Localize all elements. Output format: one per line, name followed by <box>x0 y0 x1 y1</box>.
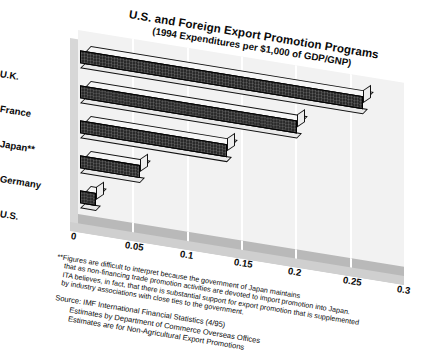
bar <box>80 155 140 178</box>
x-tick-label: 0.2 <box>288 265 303 278</box>
chart-figure: U.K.FranceJapan**GermanyU.S. 00.050.10.1… <box>0 0 422 356</box>
category-label-uk: U.K. <box>0 68 1 79</box>
category-label-france: France <box>0 103 1 114</box>
bar <box>80 120 227 157</box>
bar-end-cap <box>363 85 371 103</box>
category-axis: U.K.FranceJapan**GermanyU.S. <box>0 0 70 356</box>
bar <box>80 190 96 206</box>
x-tick-label: 0.1 <box>179 248 194 261</box>
bar-end-cap <box>96 182 104 200</box>
category-label-germany: Germany <box>0 173 1 184</box>
bar-end-cap <box>140 154 148 172</box>
category-label-japan: Japan** <box>0 138 1 149</box>
bar-end-cap <box>297 109 305 127</box>
gridline <box>404 83 406 271</box>
x-tick-label: 0.05 <box>125 239 145 253</box>
category-label-us: U.S. <box>0 208 1 219</box>
floor-gridline <box>404 267 406 285</box>
bar-front-face <box>80 190 96 206</box>
x-tick-label: 0.3 <box>396 283 411 296</box>
bar-end-cap <box>227 133 235 151</box>
